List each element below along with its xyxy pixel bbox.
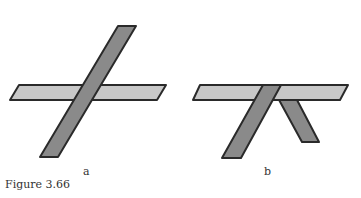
panel-label-a: a xyxy=(83,165,90,178)
right-leg-b xyxy=(278,98,319,142)
figure-diagram xyxy=(0,0,361,198)
panel-b xyxy=(193,85,348,158)
panel-label-b: b xyxy=(264,165,271,178)
figure-caption: Figure 3.66 xyxy=(5,178,70,191)
panel-a xyxy=(10,26,166,157)
